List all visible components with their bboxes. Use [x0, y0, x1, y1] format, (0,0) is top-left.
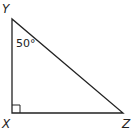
triangle-diagram: Y X Z 50°: [0, 0, 133, 132]
triangle-xyz: [12, 19, 123, 113]
angle-label-y: 50°: [16, 37, 36, 50]
vertex-label-z: Z: [121, 117, 131, 131]
vertex-label-x: X: [1, 117, 11, 131]
right-angle-marker: [12, 105, 20, 113]
vertex-label-y: Y: [2, 2, 11, 16]
